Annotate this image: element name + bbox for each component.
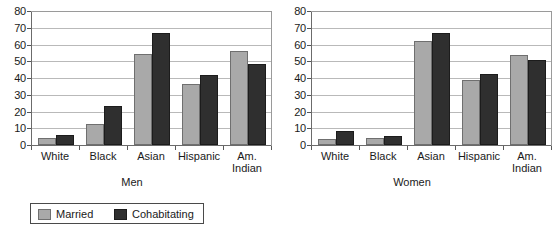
bar	[200, 75, 218, 145]
legend-entry: Cohabitating	[114, 208, 194, 220]
plot-top-rule	[311, 11, 552, 12]
bar	[104, 106, 122, 145]
y-tick-label: 50	[0, 56, 26, 67]
bar-group	[318, 11, 354, 145]
bar	[230, 51, 248, 145]
bar-group	[366, 11, 402, 145]
bar	[86, 124, 104, 145]
bar	[462, 80, 480, 145]
figure: 80706050403020100WhiteBlackAsianHispanic…	[0, 0, 560, 244]
bar-group	[230, 11, 266, 145]
chart-panel-women: 80706050403020100WhiteBlackAsianHispanic…	[280, 0, 560, 196]
bar-group	[182, 11, 218, 145]
x-axis-category-label: White	[311, 150, 359, 162]
axis-title-men: Men	[12, 176, 252, 188]
y-tick-label: 40	[280, 73, 306, 84]
bar	[432, 33, 450, 145]
y-tick-label: 0	[0, 140, 26, 151]
x-axis-category-label: Hispanic	[175, 150, 223, 162]
y-axis-labels-men: 80706050403020100	[0, 0, 26, 196]
bar	[336, 131, 354, 145]
bar-group	[414, 11, 450, 145]
y-tick-label: 30	[0, 90, 26, 101]
axis-title-women: Women	[292, 176, 532, 188]
y-tick-label: 60	[280, 40, 306, 51]
x-axis-category-label: Black	[79, 150, 127, 162]
y-tick-label: 0	[280, 140, 306, 151]
y-tick-label: 60	[0, 40, 26, 51]
legend-entry: Married	[38, 208, 93, 220]
bar-group	[38, 11, 74, 145]
x-axis-category-label: Hispanic	[455, 150, 503, 162]
y-tick-label: 70	[280, 23, 306, 34]
bar	[384, 136, 402, 145]
x-axis-category-label: Asian	[127, 150, 175, 162]
x-axis-category-label: Black	[359, 150, 407, 162]
bar	[248, 64, 266, 145]
bar	[366, 138, 384, 145]
y-tick-label: 20	[280, 107, 306, 118]
bar	[414, 41, 432, 145]
bar	[182, 84, 200, 145]
plot-right-rule	[271, 11, 272, 146]
chart-panel-men: 80706050403020100WhiteBlackAsianHispanic…	[0, 0, 280, 196]
legend-label: Cohabitating	[132, 209, 194, 220]
y-tick-label: 70	[0, 23, 26, 34]
x-axis-category-label: Am. Indian	[223, 150, 271, 174]
bar	[528, 60, 546, 145]
x-axis-category-label: Am. Indian	[503, 150, 551, 174]
plot-area-women	[311, 11, 552, 146]
bar-group	[510, 11, 546, 145]
plot-right-rule	[551, 11, 552, 146]
y-tick-label: 10	[0, 123, 26, 134]
y-tick-label: 80	[280, 6, 306, 17]
legend-swatch-married	[38, 209, 51, 220]
chart-legend: MarriedCohabitating	[30, 203, 204, 224]
legend-swatch-cohabitating	[114, 209, 127, 220]
bar	[134, 54, 152, 145]
legend-label: Married	[56, 209, 93, 220]
bar	[480, 74, 498, 145]
bar-group	[462, 11, 498, 145]
bar	[152, 33, 170, 145]
plot-area-men	[31, 11, 272, 146]
y-tick-label: 50	[280, 56, 306, 67]
bar	[56, 135, 74, 145]
y-axis-labels-women: 80706050403020100	[280, 0, 306, 196]
bar-group	[86, 11, 122, 145]
y-tick-label: 80	[0, 6, 26, 17]
bar	[318, 139, 336, 145]
bar-group	[134, 11, 170, 145]
y-tick-label: 20	[0, 107, 26, 118]
x-axis-category-label: Asian	[407, 150, 455, 162]
x-tick-mark	[271, 146, 272, 150]
y-tick-label: 30	[280, 90, 306, 101]
x-tick-mark	[551, 146, 552, 150]
bar	[510, 55, 528, 145]
bar	[38, 138, 56, 145]
y-tick-label: 40	[0, 73, 26, 84]
plot-top-rule	[31, 11, 272, 12]
x-axis-category-label: White	[31, 150, 79, 162]
y-tick-label: 10	[280, 123, 306, 134]
